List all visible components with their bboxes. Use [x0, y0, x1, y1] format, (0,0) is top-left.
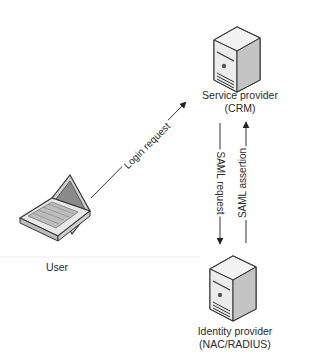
server-icon — [210, 256, 256, 321]
service-provider-label: Service provider (CRM) — [200, 89, 280, 115]
identity-provider-label: Identity provider (NAC/RADIUS) — [190, 325, 280, 351]
server-icon — [214, 27, 260, 92]
identity-provider-type: (NAC/RADIUS) — [190, 338, 280, 351]
user-label: User — [37, 261, 77, 274]
identity-provider-name: Identity provider — [190, 325, 280, 338]
saml-assertion-label: SAML assertion — [237, 146, 249, 220]
service-provider-name: Service provider — [200, 89, 280, 102]
laptop-icon — [20, 175, 90, 241]
saml-request-label: SAML request — [214, 150, 226, 217]
service-provider-type: (CRM) — [200, 102, 280, 115]
